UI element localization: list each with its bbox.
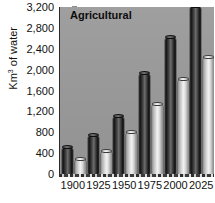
bar-2025-consumption	[203, 57, 214, 174]
bar-cap	[203, 55, 214, 59]
bar-group	[88, 7, 112, 174]
y-tick-label: 1,600	[17, 85, 54, 97]
x-tick-label: 1975	[138, 179, 162, 191]
bar-group	[62, 7, 86, 174]
y-tick-label: 0	[17, 168, 54, 180]
x-tick-label: 2025	[189, 179, 213, 191]
bar-group	[165, 7, 189, 174]
bar-cap	[165, 35, 176, 39]
agricultural-water-bar-chart: Km3 of water 04008001,2001,6002,0002,400…	[0, 0, 215, 203]
y-tick-label: 2,400	[17, 43, 54, 55]
bar-cap	[101, 149, 112, 153]
bar-1975-withdrawal	[139, 73, 150, 174]
chart-title: Agricultural	[70, 9, 132, 21]
bar-1975-consumption	[152, 104, 163, 174]
y-tick-label: 1,200	[17, 105, 54, 117]
y-tick-label: 400	[17, 147, 54, 159]
bar-cap	[88, 133, 99, 137]
bars-layer	[60, 7, 214, 174]
bar-cap	[113, 114, 124, 118]
bar-1900-withdrawal	[62, 147, 73, 174]
bar-cap	[62, 145, 73, 149]
bar-group	[139, 7, 163, 174]
bar-cap	[126, 130, 137, 134]
bar-1925-consumption	[101, 151, 112, 174]
bar-group	[190, 7, 214, 174]
y-axis-tick-labels: 04008001,2001,6002,0002,4002,8003,200	[17, 0, 54, 203]
bar-cap	[178, 77, 189, 81]
bar-cap	[190, 7, 201, 8]
bar-2000-consumption	[178, 79, 189, 175]
y-tick-label: 800	[17, 126, 54, 138]
bar-1925-withdrawal	[88, 135, 99, 174]
bar-1950-withdrawal	[113, 116, 124, 174]
x-tick-label: 1950	[112, 179, 136, 191]
x-tick-label: 2000	[163, 179, 187, 191]
x-axis-tick-labels: 190019251950197520002025	[59, 179, 213, 197]
y-tick-label: 3,200	[17, 1, 54, 13]
y-tick-label: 2,800	[17, 22, 54, 34]
plot-area: Agricultural	[59, 7, 214, 174]
x-tick-label: 1925	[86, 179, 110, 191]
bar-cap	[75, 157, 86, 161]
bar-1950-consumption	[126, 132, 137, 174]
bar-group	[113, 7, 137, 174]
bar-2000-withdrawal	[165, 37, 176, 174]
bar-2025-withdrawal	[190, 7, 201, 174]
x-tick-label: 1900	[61, 179, 85, 191]
y-axis-title-exponent: 3	[7, 69, 14, 73]
y-tick-label: 2,000	[17, 64, 54, 76]
x-axis-line	[59, 174, 214, 177]
bar-cap	[139, 71, 150, 75]
bar-1900-consumption	[75, 159, 86, 174]
bar-cap	[152, 102, 163, 106]
